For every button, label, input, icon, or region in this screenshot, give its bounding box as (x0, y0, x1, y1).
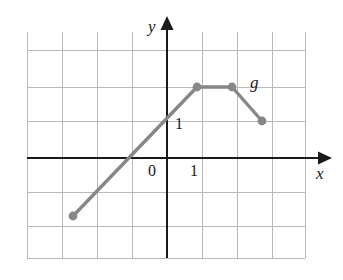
x-axis-label: x (316, 165, 324, 182)
coordinate-plane (0, 0, 343, 280)
curve-point-peak-right (228, 83, 237, 92)
x-axis-arrowhead (318, 152, 332, 165)
graph-figure: y x g 0 1 1 (0, 0, 343, 280)
curve-point-right-endpoint (258, 117, 267, 126)
curve-label-g: g (250, 74, 259, 91)
grid-lines (27, 32, 305, 258)
y-axis-label: y (148, 18, 156, 35)
origin-tick-label: 0 (148, 163, 156, 179)
axis-lines (27, 16, 332, 258)
x-unit-tick-label: 1 (190, 163, 198, 179)
curve-point-peak-left (193, 83, 202, 92)
y-unit-tick-label: 1 (175, 116, 183, 132)
y-axis-arrowhead (161, 16, 174, 30)
curve-point-left-endpoint (69, 212, 78, 221)
